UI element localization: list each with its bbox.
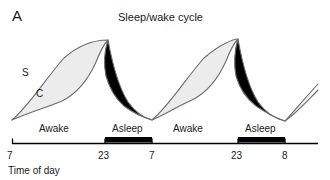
sleep-wake-cycle-figure: A Sleep/wake cycle S C Awake Asleep Awak… <box>0 0 330 180</box>
state-label-asleep-1: Asleep <box>112 124 143 134</box>
sleep-bar-2 <box>238 137 285 143</box>
panel-letter: A <box>12 8 22 23</box>
tick-label-23a: 23 <box>98 151 109 161</box>
tick-label-7b: 7 <box>149 151 155 161</box>
awake-region-1 <box>12 40 108 120</box>
tick-label-7a: 7 <box>7 151 13 161</box>
asleep-region-1 <box>105 40 152 120</box>
tick-label-23b: 23 <box>231 151 242 161</box>
state-label-awake-1: Awake <box>39 124 69 134</box>
state-label-asleep-2: Asleep <box>245 124 276 134</box>
awake-region-2 <box>152 39 238 120</box>
sleep-wake-cycle-plot <box>0 0 330 180</box>
curve-label-s: S <box>22 68 29 78</box>
x-axis-title: Time of day <box>8 166 60 176</box>
figure-title: Sleep/wake cycle <box>118 12 203 23</box>
state-label-awake-2: Awake <box>173 124 203 134</box>
curve-label-c: C <box>36 89 43 99</box>
sleep-bar-1 <box>105 137 152 143</box>
tick-label-8: 8 <box>282 151 288 161</box>
